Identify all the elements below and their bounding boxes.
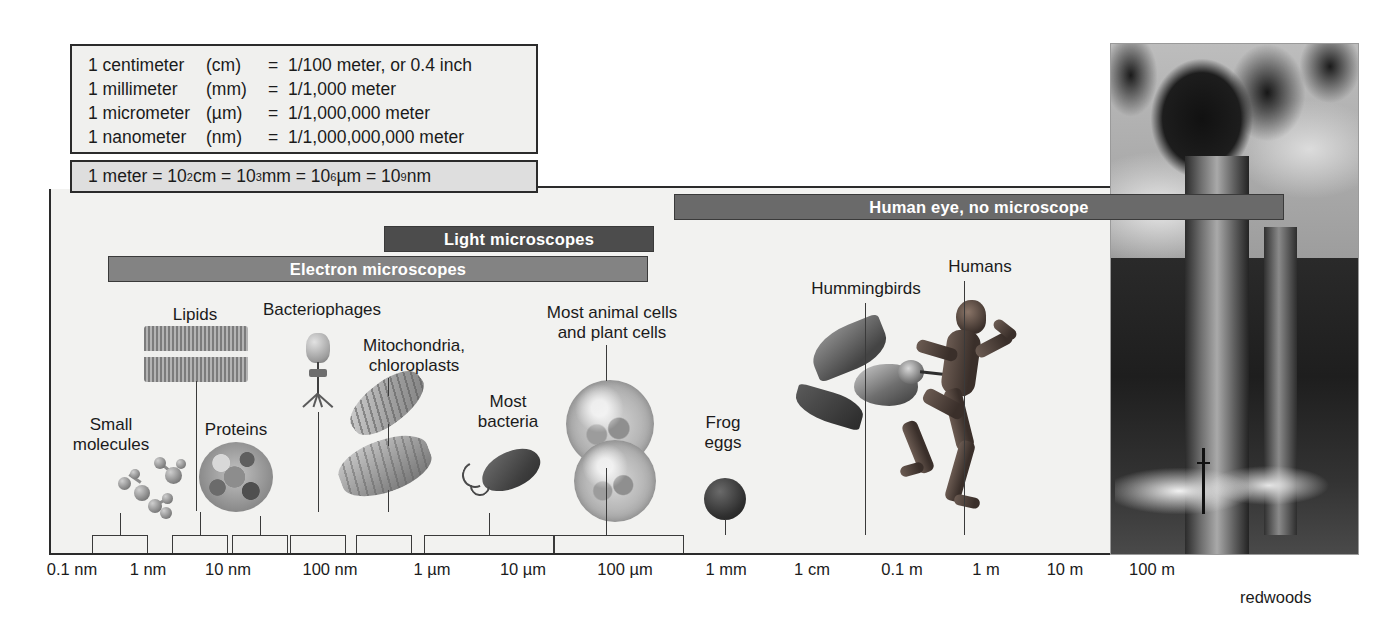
bracket-stem-small-molecules [120,513,121,535]
molecule-atom [162,493,173,504]
leader-line-bacteriophage [318,412,319,512]
runner-foot-back [899,461,925,478]
bracket-small-molecules [92,535,148,553]
axis-tick-2: 10 nm [205,560,251,579]
leader-line-frog-eggs [725,519,726,535]
leader-line-mitochondria [388,378,389,396]
unit-name: 1 millimeter [88,77,206,101]
bracket-mitochondria [356,535,412,553]
axis-tick-3: 100 nm [302,560,357,579]
bracket-lipids [232,535,288,553]
bar-human-eye: Human eye, no microscope [674,194,1284,220]
axis-tick-8: 1 cm [794,560,830,579]
bracket-bacteriophages [290,535,346,553]
axis-tick-12: 100 m [1129,560,1175,579]
axis-tick-9: 0.1 m [881,560,922,579]
unit-abbreviation: (mm) [206,77,268,101]
molecule-atom [165,467,182,484]
size-scale-diagram: 1 centimeter (cm) = 1/100 meter, or 0.4 … [0,0,1374,629]
label-animal-plant-cells: Most animal cells and plant cells [522,303,702,343]
molecule-atom [130,469,140,479]
redwoods-caption: redwoods [1240,588,1312,607]
bracket-stem-lipids [260,516,261,535]
label-frog-eggs: Frog eggs [678,413,768,453]
plant-cell-artwork [574,440,656,522]
human-runner-artwork [892,300,1022,530]
bracket-proteins [172,535,228,553]
bracket-animal-plant-cells [554,535,684,553]
equals-sign: = [268,77,288,101]
bracket-stem-most-bacteria [489,513,490,535]
label-mitochondria-chloroplasts: Mitochondria, chloroplasts [344,336,484,376]
unit-value: 1/1,000 meter [288,77,396,101]
unit-name: 1 centimeter [88,53,206,77]
label-bacteriophages: Bacteriophages [247,300,397,320]
runner-foot-front [953,493,981,509]
leader-line-animal-cells [606,345,607,381]
legend-row: 1 nanometer (nm) = 1/1,000,000,000 meter [88,125,536,149]
frog-egg-artwork [704,478,746,520]
axis-tick-11: 10 m [1047,560,1084,579]
axis-tick-1: 1 nm [130,560,167,579]
small-molecules-artwork [110,455,190,520]
bracket-stem-proteins [200,512,201,535]
bracket-most-bacteria [424,535,554,553]
molecule-atom [118,477,131,490]
leader-line-lipids [196,381,197,511]
axis-tick-0: 0.1 nm [47,560,97,579]
phage-collar [309,369,327,377]
label-hummingbirds: Hummingbirds [786,279,946,299]
legend-row: 1 millimeter (mm) = 1/1,000 meter [88,77,536,101]
label-most-bacteria: Most bacteria [458,392,558,432]
bar-label: Light microscopes [444,230,594,249]
unit-abbreviation: (nm) [206,125,268,149]
molecule-atom [134,485,150,501]
meter-equation: 1 meter = 102 cm = 103 mm = 106 µm = 109… [70,160,538,193]
equation-unit-4: nm [407,166,431,187]
equation-unit-1: cm = 10 [193,166,256,187]
protein-artwork [199,442,273,512]
leader-line-chloroplast [388,424,389,446]
leader-line-humans [964,281,965,535]
molecule-atom [154,457,166,469]
bracket-stem-animal-plant-cells [606,468,607,535]
label-humans: Humans [925,257,1035,277]
label-lipids: Lipids [150,305,240,325]
equals-sign: = [268,101,288,125]
bar-electron-microscopes: Electron microscopes [108,256,648,282]
leader-line-redwoods [1243,508,1244,554]
phage-head [306,333,330,363]
bar-label: Electron microscopes [290,260,466,279]
axis-tick-5: 10 µm [500,560,546,579]
unit-value: 1/100 meter, or 0.4 inch [288,53,472,77]
unit-conversion-legend: 1 centimeter (cm) = 1/100 meter, or 0.4 … [70,44,538,154]
bar-light-microscopes: Light microscopes [384,226,654,252]
photo-person-for-scale [1202,448,1205,515]
label-small-molecules: Small molecules [56,415,166,455]
unit-abbreviation: (cm) [206,53,268,77]
axis-tick-4: 1 µm [413,560,450,579]
lipid-bilayer-artwork [144,326,248,382]
axis-tick-10: 1 m [972,560,1000,579]
leader-line-mito-axis [388,490,389,512]
unit-value: 1/1,000,000,000 meter [288,125,464,149]
leader-line-hummingbird [865,303,866,535]
legend-row: 1 centimeter (cm) = 1/100 meter, or 0.4 … [88,53,536,77]
equation-unit-3: µm = 10 [336,166,400,187]
molecule-atom [176,459,186,469]
equals-sign: = [268,53,288,77]
equals-sign: = [268,125,288,149]
legend-row: 1 micrometer (µm) = 1/1,000,000 meter [88,101,536,125]
bacteriophage-artwork [292,333,344,415]
bar-label: Human eye, no microscope [869,198,1088,217]
runner-torso [940,328,983,398]
unit-abbreviation: (µm) [206,101,268,125]
unit-name: 1 nanometer [88,125,206,149]
equation-lead: 1 meter = 10 [88,166,187,187]
equation-unit-2: mm = 10 [262,166,331,187]
unit-value: 1/1,000,000 meter [288,101,430,125]
axis-tick-7: 1 mm [705,560,746,579]
label-proteins: Proteins [186,420,286,440]
axis-tick-6: 100 µm [597,560,652,579]
molecule-atom [160,507,172,519]
